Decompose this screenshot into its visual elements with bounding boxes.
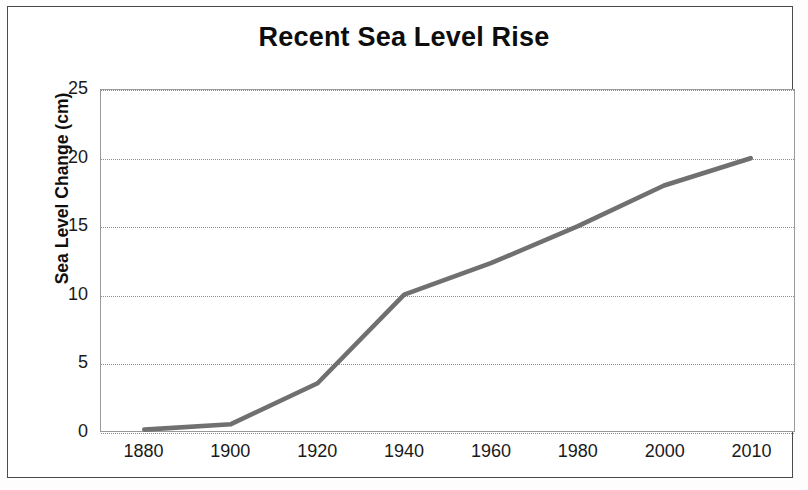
x-tick-label-1920: 1920 <box>272 441 362 462</box>
y-tick-label-0: 0 <box>28 421 88 442</box>
y-tick-label-15: 15 <box>28 215 88 236</box>
y-tick-label-20: 20 <box>28 147 88 168</box>
x-tick-label-1940: 1940 <box>359 441 449 462</box>
x-tick-label-2000: 2000 <box>620 441 710 462</box>
x-tick-label-1980: 1980 <box>533 441 623 462</box>
y-tick-label-25: 25 <box>28 78 88 99</box>
series-polyline <box>144 158 750 429</box>
plot-area <box>100 89 795 432</box>
chart-page: Recent Sea Level Rise Sea Level Change (… <box>0 0 808 490</box>
x-tick-label-1880: 1880 <box>98 441 188 462</box>
y-tick-label-10: 10 <box>28 284 88 305</box>
x-tick-label-1900: 1900 <box>185 441 275 462</box>
chart-title: Recent Sea Level Rise <box>0 22 808 53</box>
x-tick-label-2010: 2010 <box>707 441 797 462</box>
y-tick-label-5: 5 <box>28 352 88 373</box>
series-line-sea-level-change <box>101 90 794 431</box>
x-axis-tick-labels: 18801900192019401960198020002010 <box>100 434 795 468</box>
x-tick-label-1960: 1960 <box>446 441 536 462</box>
